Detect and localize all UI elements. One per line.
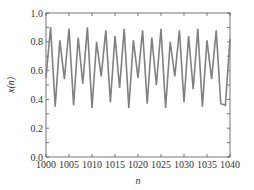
y-tick-label: 0.2 [31, 123, 44, 134]
x-tick-label: 1040 [220, 159, 240, 170]
y-tick-label: 0.0 [31, 152, 44, 163]
x-tick-label: 1020 [128, 159, 148, 170]
y-tick-label: 0.4 [31, 94, 44, 105]
x-tick-label: 1010 [82, 159, 102, 170]
x-tick-label: 1005 [59, 159, 79, 170]
x-tick-label: 1030 [174, 159, 194, 170]
x-tick-label: 1035 [197, 159, 217, 170]
plot-frame [46, 13, 230, 157]
x-tick-label: 1015 [105, 159, 125, 170]
x-tick-label: 1025 [151, 159, 171, 170]
chart: 100010051010101510201025103010351040 0.0… [0, 0, 254, 190]
y-tick-label: 1.0 [31, 8, 44, 19]
x-axis-label: n [136, 175, 141, 186]
x-axis-ticks: 100010051010101510201025103010351040 [36, 13, 240, 170]
plot-area: 100010051010101510201025103010351040 0.0… [31, 8, 241, 171]
y-axis-label: x(n) [5, 76, 17, 94]
data-line [46, 27, 230, 108]
y-tick-label: 0.6 [31, 65, 44, 76]
y-tick-label: 0.8 [31, 36, 44, 47]
